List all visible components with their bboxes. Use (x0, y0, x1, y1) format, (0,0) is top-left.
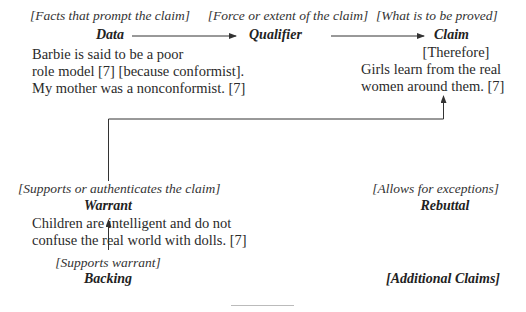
warrant-text: Children are intelligent and do not conf… (32, 215, 247, 249)
data-text-line: Barbie is said to be a poor (32, 46, 245, 63)
warrant-text-line: Children are intelligent and do not (32, 215, 247, 232)
data-text: Barbie is said to be a poor role model [… (32, 46, 245, 97)
data-term: Data (90, 27, 130, 43)
qualifier-term: Qualifier (249, 27, 302, 43)
warrant-hint: [Supports or authenticates the claim] (18, 181, 198, 197)
rebuttal-term: Rebuttal (410, 198, 480, 214)
claim-text-line: women around them. [7] (361, 78, 504, 95)
warrant-term: Warrant (78, 198, 138, 214)
warrant-text-line: confuse the real world with dolls. [7] (32, 232, 247, 249)
data-text-line: role model [7] [because conformist]. (32, 63, 245, 80)
data-text-line: My mother was a nonconformist. [7] (32, 80, 245, 97)
claim-term: Claim (434, 27, 469, 43)
claim-hint: [What is to be proved] (376, 8, 496, 24)
backing-hint: [Supports warrant] (48, 255, 168, 271)
warrant-to-claim-arrow (109, 96, 444, 181)
data-hint: [Facts that prompt the claim] (30, 8, 190, 24)
backing-term: Backing (78, 271, 138, 287)
qualifier-hint: [Force or extent of the claim] (198, 8, 378, 24)
additional-claims-label: [Additional Claims] (380, 271, 500, 287)
claim-text: Girls learn from the real women around t… (361, 61, 504, 95)
claim-connector: [Therefore] (416, 44, 496, 61)
claim-text-line: Girls learn from the real (361, 61, 504, 78)
rebuttal-hint: [Allows for exceptions] (360, 181, 499, 197)
